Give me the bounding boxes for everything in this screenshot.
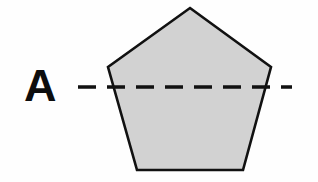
- figure-container: A: [0, 0, 318, 182]
- geometry-figure: A: [0, 0, 318, 182]
- shape-label-a: A: [24, 60, 57, 111]
